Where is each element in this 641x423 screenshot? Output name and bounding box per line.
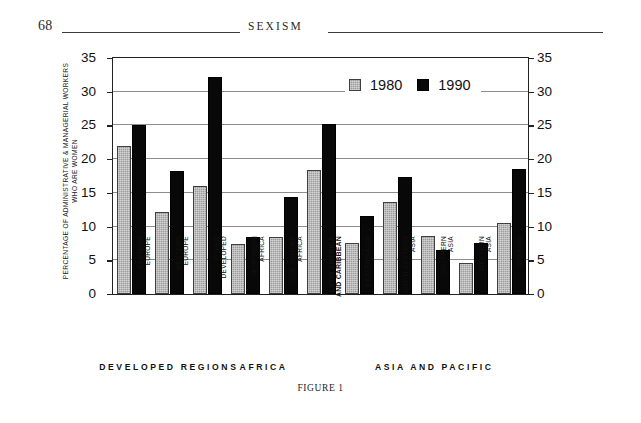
chart-legend: 1980 1990: [345, 75, 481, 95]
region-group-label: DEVELOPED REGIONS: [99, 362, 238, 372]
figure-container: PERCENTAGE OF ADMINISTRATIVE & MANAGERIA…: [0, 40, 641, 423]
bar-1980: [193, 186, 207, 294]
y-tick-left-0: 0: [56, 287, 96, 301]
y-tick-left-5: 5: [56, 253, 96, 267]
y-tickmark-right-20: [529, 159, 534, 160]
y-tickmark-right-35: [529, 58, 534, 59]
legend-swatch-1980: [349, 79, 361, 91]
bar-1980: [497, 223, 511, 294]
bar-1980: [231, 244, 245, 294]
running-head-title: SEXISM: [248, 20, 303, 32]
page-running-header: 68 SEXISM: [0, 18, 641, 40]
y-tickmark-right-10: [529, 227, 534, 228]
x-category-label: NORTHERN AFRICA: [251, 236, 261, 298]
y-tick-right-10: 10: [537, 220, 577, 234]
y-tick-left-20: 20: [56, 152, 96, 166]
legend-label-1990: 1990: [438, 77, 470, 93]
y-tick-left-25: 25: [56, 118, 96, 132]
y-tick-left-10: 10: [56, 220, 96, 234]
x-axis-category-labels: EASTERN EUROPEWESTERN EUROPEOTHER DEVELO…: [112, 298, 529, 360]
header-rule-right: [328, 32, 603, 33]
bar-1980: [421, 236, 435, 294]
y-tick-left-30: 30: [56, 85, 96, 99]
y-tickmark-right-25: [529, 125, 534, 126]
y-tickmark-right-5: [529, 260, 534, 261]
y-tick-left-35: 35: [56, 51, 96, 65]
region-group-label: AFRICA: [240, 362, 288, 372]
y-tick-right-5: 5: [537, 253, 577, 267]
bar-1980: [155, 212, 169, 294]
bar-1980: [117, 146, 131, 294]
x-axis-group-labels: DEVELOPED REGIONSAFRICALATIN AMERICA AND…: [0, 362, 641, 382]
x-category-label: EASTERN ASIA: [364, 236, 374, 298]
y-tick-right-0: 0: [537, 287, 577, 301]
region-group-label: ASIA AND PACIFIC: [375, 362, 494, 372]
y-tickmark-right-0: [529, 294, 534, 295]
x-category-label: OCEANIA: [516, 236, 526, 298]
y-tick-right-35: 35: [537, 51, 577, 65]
x-category-label: OTHER DEVELOPED: [213, 236, 223, 298]
x-category-label: SUB-SAHARA AFRICA: [289, 236, 299, 298]
y-tickmark-right-30: [529, 92, 534, 93]
x-category-label: WESTERN EUROPE: [175, 236, 185, 298]
bar-1980: [383, 202, 397, 294]
y-tick-right-30: 30: [537, 85, 577, 99]
x-category-label: SOUTH-EASTERN ASIA: [402, 236, 412, 298]
header-rule-left: [62, 32, 240, 33]
y-tickmark-right-15: [529, 193, 534, 194]
y-tick-right-20: 20: [537, 152, 577, 166]
y-tick-left-15: 15: [56, 186, 96, 200]
bar-1980: [459, 263, 473, 294]
x-category-label: WESTERN ASIA: [478, 236, 488, 298]
y-tick-right-15: 15: [537, 186, 577, 200]
bar-1980: [307, 170, 321, 294]
bar-1980: [345, 243, 359, 294]
x-category-label: SOUTHERN ASIA: [440, 236, 450, 298]
bar-1980: [269, 237, 283, 294]
figure-caption: FIGURE 1: [0, 383, 641, 393]
legend-label-1980: 1980: [370, 77, 402, 93]
x-category-label: LATIN AMERICA AND CARIBBEAN: [328, 236, 338, 298]
y-tick-right-25: 25: [537, 118, 577, 132]
page-number: 68: [38, 18, 52, 34]
legend-swatch-1990: [417, 79, 429, 91]
x-category-label: EASTERN EUROPE: [137, 236, 147, 298]
